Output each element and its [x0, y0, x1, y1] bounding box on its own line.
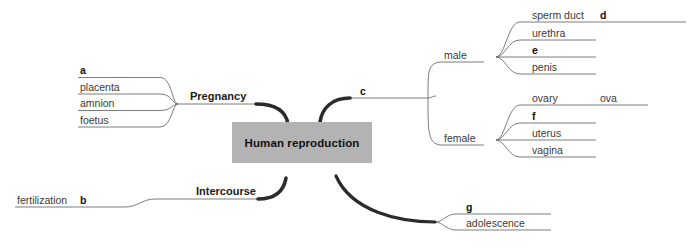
leaf-curve-adolescence — [435, 222, 456, 230]
leaf-label-amnion[interactable]: amnion — [80, 98, 114, 109]
leaf-curve-placenta — [160, 94, 178, 104]
main-wire-pregnancy — [256, 104, 288, 124]
leaf-curve-a — [160, 78, 178, 105]
fork-line-female — [428, 98, 440, 145]
branch-label-c[interactable]: c — [360, 86, 366, 97]
leaf-curve-vagina — [496, 140, 520, 157]
main-wire-c — [320, 98, 350, 122]
center-node[interactable]: Human reproduction — [232, 122, 372, 163]
leaf-curve-g — [435, 214, 456, 222]
main-wire-adolescence — [336, 176, 435, 222]
branch-label-intercourse[interactable]: Intercourse — [196, 186, 256, 197]
leaf-label-urethra[interactable]: urethra — [532, 28, 565, 39]
fork-node-c — [428, 96, 436, 98]
branch-stem-intercourse — [125, 199, 258, 207]
leaf-label-e[interactable]: e — [532, 45, 538, 56]
leaf-curve-penis — [496, 57, 520, 74]
leaf-label-penis[interactable]: penis — [532, 62, 557, 73]
leaf-label-b[interactable]: b — [80, 195, 86, 206]
node-label-female[interactable]: female — [444, 133, 476, 144]
leaf-label-vagina[interactable]: vagina — [532, 145, 563, 156]
leaf-label-f[interactable]: f — [532, 111, 536, 122]
leaf-label-adolescence[interactable]: adolescence — [466, 218, 525, 229]
leaf-curve-amnion — [160, 104, 178, 111]
leaf-label-sperm-duct[interactable]: sperm duct — [532, 10, 584, 21]
leaf-label-fertilization[interactable]: fertilization — [17, 195, 67, 206]
leaf-label-ova[interactable]: ova — [600, 93, 617, 104]
leaf-label-d[interactable]: d — [600, 10, 606, 21]
mind-map-diagram: Human reproduction a placenta amnion foe… — [0, 0, 697, 249]
fork-line-male — [428, 62, 440, 98]
leaf-label-a[interactable]: a — [80, 65, 86, 76]
branch-label-pregnancy[interactable]: Pregnancy — [190, 91, 246, 102]
leaf-curve-sperm-duct — [496, 22, 520, 57]
leaf-curve-ovary — [496, 105, 520, 140]
main-wire-intercourse — [258, 178, 286, 199]
leaf-label-placenta[interactable]: placenta — [80, 82, 120, 93]
leaf-curve-foetus — [160, 104, 178, 127]
leaf-label-uterus[interactable]: uterus — [532, 128, 561, 139]
node-label-male[interactable]: male — [444, 50, 467, 61]
leaf-label-foetus[interactable]: foetus — [80, 115, 109, 126]
center-node-label: Human reproduction — [245, 137, 360, 149]
leaf-label-g[interactable]: g — [466, 202, 472, 213]
leaf-label-ovary[interactable]: ovary — [532, 93, 558, 104]
